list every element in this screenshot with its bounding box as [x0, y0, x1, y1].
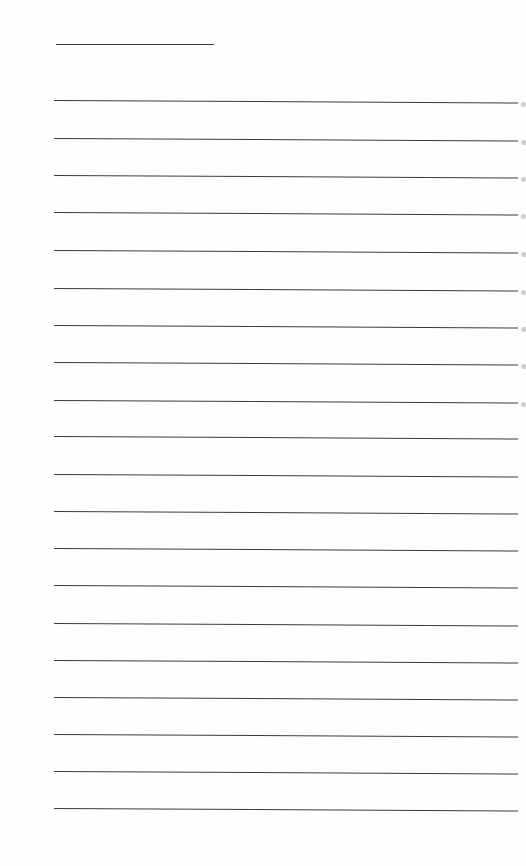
- edge-mark: [521, 252, 526, 257]
- rule-line: [54, 100, 518, 103]
- rule-line: [54, 548, 518, 551]
- rule-line: [54, 325, 518, 328]
- edge-mark: [521, 102, 526, 107]
- edge-mark: [521, 364, 526, 369]
- edge-mark: [521, 177, 526, 182]
- rule-line: [54, 808, 518, 811]
- rule-line: [54, 660, 518, 663]
- rule-line: [54, 697, 518, 700]
- rule-line: [54, 511, 518, 514]
- rule-line: [54, 436, 518, 439]
- edge-mark: [521, 402, 526, 407]
- rule-line: [54, 623, 518, 626]
- rule-line: [54, 585, 518, 588]
- edge-mark: [521, 214, 526, 219]
- rule-line: [54, 362, 518, 365]
- rule-line: [54, 288, 518, 291]
- edge-mark: [521, 140, 526, 145]
- rule-line: [54, 138, 518, 141]
- edge-mark: [521, 290, 526, 295]
- rule-line: [54, 474, 518, 477]
- lined-paper-page: [0, 0, 526, 866]
- rule-line: [54, 212, 518, 215]
- rule-line: [54, 400, 518, 403]
- edge-mark: [521, 327, 526, 332]
- rule-line: [54, 175, 518, 178]
- title-line: [56, 44, 214, 45]
- rule-line: [54, 250, 518, 253]
- rule-line: [54, 734, 518, 737]
- rule-line: [54, 771, 518, 774]
